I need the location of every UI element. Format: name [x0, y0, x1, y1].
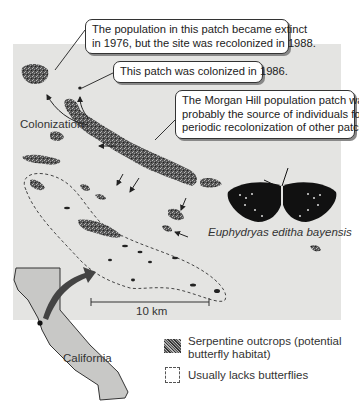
butterfly-illustration	[228, 168, 337, 222]
callout-morgan-hill: The Morgan Hill population patch was pro…	[175, 90, 355, 139]
species-label: Euphydryas editha bayensis	[208, 226, 352, 238]
location-dot	[37, 320, 42, 325]
colonization-label: Colonization	[20, 118, 83, 130]
serpentine-swatch-icon	[164, 339, 181, 353]
california-label: California	[63, 352, 112, 364]
callout-colonized: This patch was colonized in 1986.	[113, 61, 263, 83]
legend-line: Serpentine outcrops (potential	[188, 335, 341, 348]
callout-line: probably the source of individuals for	[182, 108, 348, 122]
callout-line: The population in this patch became exti…	[92, 23, 282, 37]
callout-line: periodic recolonization of other patches…	[182, 121, 348, 135]
callout-line: The Morgan Hill population patch was	[182, 94, 348, 108]
legend-line: Usually lacks butterflies	[188, 369, 308, 382]
california-map	[14, 268, 128, 400]
scale-bar-label: 10 km	[136, 305, 167, 317]
legend-serpentine: Serpentine outcrops (potential butterfly…	[188, 335, 341, 361]
dashed-box-icon	[165, 367, 180, 383]
callout-line: This patch was colonized in 1986.	[120, 65, 256, 79]
legend-line: butterfly habitat)	[188, 348, 341, 361]
legend-lacks-butterflies: Usually lacks butterflies	[188, 369, 308, 382]
callout-extinct: The population in this patch became exti…	[85, 19, 289, 54]
callout-line: in 1976, but the site was recolonized in…	[92, 37, 282, 51]
